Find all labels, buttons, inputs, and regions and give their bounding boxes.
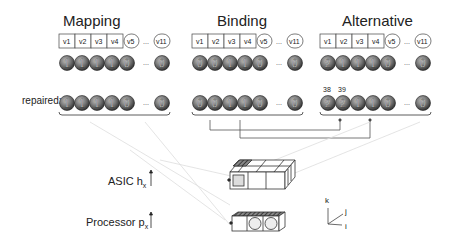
svg-text:...: ... — [143, 99, 149, 106]
svg-text:...: ... — [143, 59, 149, 66]
svg-text:0: 0 — [257, 98, 263, 109]
diagram-canvas: v1v2v3v4v5...v11111100...111100...v1v2v3… — [0, 0, 451, 245]
svg-text:0: 0 — [420, 58, 426, 69]
svg-text:v4: v4 — [372, 38, 380, 45]
svg-text:...: ... — [404, 59, 410, 66]
svg-text:2: 2 — [325, 98, 331, 109]
svg-text:1: 1 — [355, 98, 361, 109]
svg-text:1: 1 — [227, 58, 233, 69]
svg-text:0: 0 — [124, 58, 130, 69]
svg-text:v2: v2 — [79, 38, 87, 45]
svg-text:i: i — [345, 222, 347, 231]
svg-text:1: 1 — [79, 98, 85, 109]
svg-text:v2: v2 — [212, 38, 220, 45]
svg-text:...: ... — [276, 99, 282, 106]
svg-text:v11: v11 — [156, 38, 167, 45]
svg-text:2: 2 — [340, 98, 346, 109]
svg-text:0: 0 — [197, 58, 203, 69]
asic-array — [228, 160, 295, 189]
svg-text:k: k — [325, 196, 330, 205]
svg-text:...: ... — [143, 38, 149, 45]
svg-text:0: 0 — [197, 98, 203, 109]
svg-text:0: 0 — [292, 58, 298, 69]
svg-text:1: 1 — [242, 58, 248, 69]
svg-text:v3: v3 — [228, 38, 236, 45]
svg-text:1: 1 — [79, 58, 85, 69]
svg-text:v5: v5 — [388, 38, 396, 45]
svg-text:1: 1 — [94, 58, 100, 69]
svg-text:1: 1 — [94, 98, 100, 109]
svg-text:v1: v1 — [324, 38, 332, 45]
svg-text:v11: v11 — [289, 38, 300, 45]
svg-text:2: 2 — [325, 58, 331, 69]
svg-text:j: j — [344, 207, 347, 216]
svg-text:v4: v4 — [111, 38, 119, 45]
svg-text:...: ... — [276, 38, 282, 45]
svg-text:1: 1 — [109, 98, 115, 109]
svg-text:39: 39 — [338, 86, 346, 93]
svg-text:1: 1 — [370, 98, 376, 109]
svg-text:0: 0 — [257, 58, 263, 69]
svg-text:...: ... — [404, 99, 410, 106]
svg-text:1: 1 — [370, 58, 376, 69]
svg-text:v2: v2 — [340, 38, 348, 45]
svg-text:0: 0 — [212, 58, 218, 69]
svg-text:v11: v11 — [417, 38, 428, 45]
svg-text:v4: v4 — [244, 38, 252, 45]
svg-text:v3: v3 — [95, 38, 103, 45]
svg-text:v5: v5 — [127, 38, 135, 45]
arrow-icons — [150, 170, 153, 228]
svg-text:0: 0 — [124, 98, 130, 109]
svg-text:0: 0 — [385, 98, 391, 109]
svg-text:1: 1 — [242, 98, 248, 109]
svg-text:0: 0 — [159, 98, 165, 109]
svg-text:...: ... — [404, 38, 410, 45]
svg-text:v1: v1 — [196, 38, 204, 45]
svg-text:0: 0 — [420, 98, 426, 109]
svg-text:...: ... — [276, 59, 282, 66]
svg-text:0: 0 — [292, 98, 298, 109]
svg-text:38: 38 — [323, 86, 331, 93]
svg-text:0: 0 — [159, 58, 165, 69]
svg-text:1: 1 — [227, 98, 233, 109]
svg-text:1: 1 — [64, 58, 70, 69]
svg-text:0: 0 — [212, 98, 218, 109]
svg-text:v1: v1 — [63, 38, 71, 45]
svg-text:v3: v3 — [356, 38, 364, 45]
axes-icon — [328, 208, 343, 225]
svg-text:0: 0 — [385, 58, 391, 69]
svg-text:v5: v5 — [260, 38, 268, 45]
svg-text:1: 1 — [109, 58, 115, 69]
processor-array — [230, 212, 285, 231]
binding-connectors — [210, 119, 371, 138]
svg-text:1: 1 — [340, 58, 346, 69]
svg-text:1: 1 — [355, 58, 361, 69]
svg-text:1: 1 — [64, 98, 70, 109]
